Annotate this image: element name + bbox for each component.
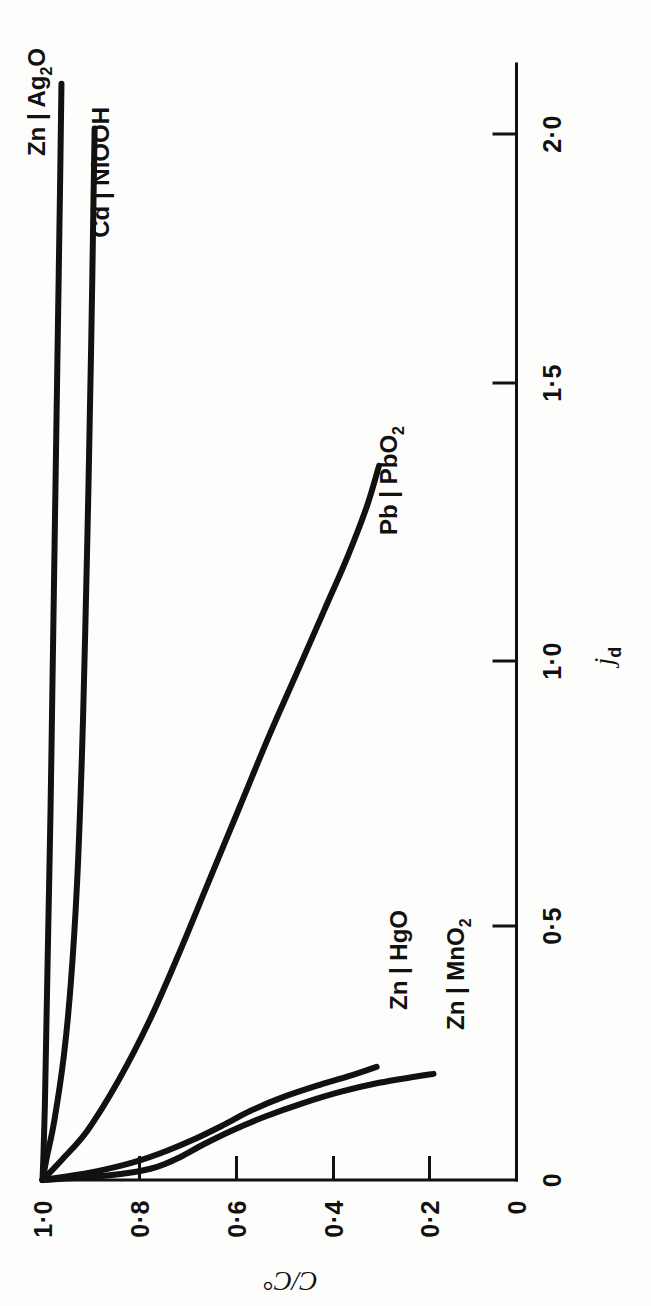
chart-svg: 0 0·5 1·0 1·5 2·0 0 0·2 0·4 0·6 0·8 1·0 xyxy=(0,0,651,1306)
x-axis-title-sub: d xyxy=(604,647,624,658)
y-tick-labels: 0 0·2 0·4 0·6 0·8 1·0 xyxy=(28,1200,530,1238)
curve-label-pb-pbo2: Pb | PbO2 xyxy=(374,426,406,535)
curve-cd-niooh xyxy=(42,128,94,1180)
figure-root: 0 0·5 1·0 1·5 2·0 0 0·2 0·4 0·6 0·8 1·0 xyxy=(0,0,651,1306)
y-tick-label-0: 0 xyxy=(502,1200,530,1214)
y-axis-title: C/C° xyxy=(263,1266,318,1296)
curve-pb-pbo2 xyxy=(42,466,379,1180)
curve-label-zn-hgo: Zn | HgO xyxy=(384,910,411,1010)
x-axis-title: jd xyxy=(588,647,624,669)
curve-zn-ag2o xyxy=(42,84,61,1180)
curve-label-cd-niooh: Cd | NiOOH xyxy=(86,107,113,238)
x-tick-label-0: 0 xyxy=(537,1173,565,1187)
x-tick-marks xyxy=(492,134,516,1180)
rotated-figure-canvas: 0 0·5 1·0 1·5 2·0 0 0·2 0·4 0·6 0·8 1·0 xyxy=(0,0,651,1306)
curves xyxy=(42,84,433,1180)
x-tick-label-1: 0·5 xyxy=(537,907,565,945)
x-tick-label-3: 1·5 xyxy=(537,364,565,402)
y-tick-label-5: 1·0 xyxy=(28,1200,56,1238)
x-tick-labels: 0 0·5 1·0 1·5 2·0 xyxy=(537,115,565,1187)
x-tick-label-2: 1·0 xyxy=(537,642,565,680)
y-tick-label-3: 0·6 xyxy=(222,1200,250,1238)
curve-label-zn-ag2o: Zn | Ag2O xyxy=(22,48,54,156)
curve-label-zn-mno2: Zn | MnO2 xyxy=(441,918,473,1030)
y-tick-label-4: 0·8 xyxy=(125,1200,153,1238)
x-axis-title-main: j xyxy=(588,658,618,669)
y-tick-label-1: 0·2 xyxy=(415,1200,443,1238)
plot-area: 0 0·5 1·0 1·5 2·0 0 0·2 0·4 0·6 0·8 1·0 xyxy=(0,0,651,1306)
y-tick-label-2: 0·4 xyxy=(319,1200,347,1238)
x-tick-label-4: 2·0 xyxy=(537,115,565,153)
